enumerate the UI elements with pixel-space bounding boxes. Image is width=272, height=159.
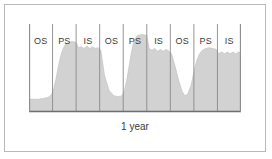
figure-root: OS PS IS OS PS IS OS PS IS 1 year bbox=[0, 0, 272, 159]
area-series-group bbox=[29, 35, 241, 112]
activity-area-path bbox=[29, 35, 241, 112]
area-chart-svg bbox=[29, 24, 241, 118]
axis-span-caption: 1 year bbox=[29, 122, 241, 132]
plot-area bbox=[29, 24, 241, 118]
